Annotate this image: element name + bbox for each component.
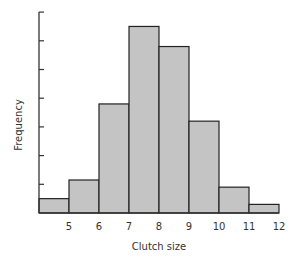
histogram-bar [249,204,279,213]
x-axis-tick-labels: 56789101112 [66,221,286,232]
histogram-bar [219,187,249,213]
histogram-bar [129,26,159,213]
y-axis-label: Frequency [13,99,24,151]
x-tick-label: 7 [126,221,132,232]
x-axis-label: Clutch size [132,241,186,252]
histogram-bar [189,121,219,213]
histogram-chart: 56789101112 Frequency Clutch size [0,0,300,264]
x-tick-label: 12 [273,221,286,232]
histogram-bar [159,47,189,213]
x-tick-label: 11 [243,221,256,232]
x-tick-label: 5 [66,221,72,232]
histogram-bars [39,26,279,213]
histogram-bar [99,104,129,213]
x-tick-label: 8 [156,221,162,232]
x-tick-label: 9 [186,221,192,232]
x-tick-label: 6 [96,221,102,232]
y-axis-ticks [39,12,44,184]
x-tick-label: 10 [213,221,226,232]
histogram-bar [69,180,99,213]
histogram-bar [39,199,69,213]
